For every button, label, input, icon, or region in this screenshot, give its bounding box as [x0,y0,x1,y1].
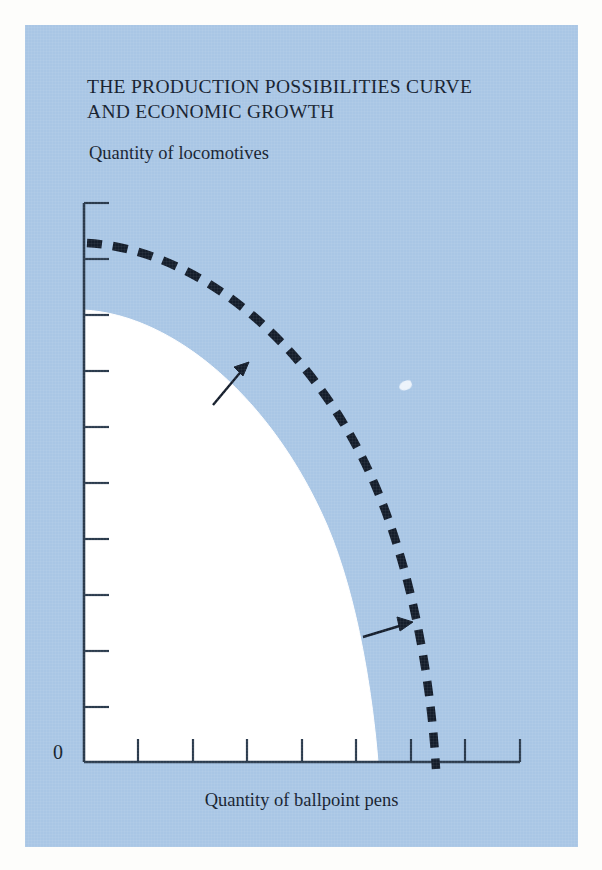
figure-panel: THE PRODUCTION POSSIBILITIES CURVE AND E… [25,25,578,847]
figure-root: THE PRODUCTION POSSIBILITIES CURVE AND E… [0,0,602,870]
plot-area [25,25,578,847]
original-ppc-region [84,310,378,762]
growth-arrow-lower [363,617,413,637]
